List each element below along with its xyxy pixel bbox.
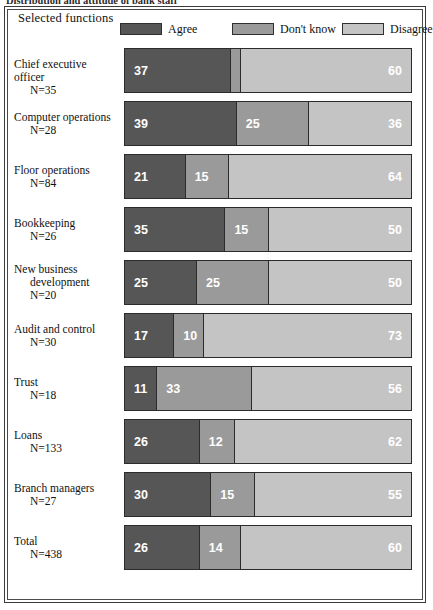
row-floor-operations-bar: 211564: [124, 154, 412, 199]
row-chief-executive-officer-segment-disagree: 60: [240, 49, 411, 92]
row-computer-operations: Computer operationsN=28392536: [0, 101, 430, 146]
row-loans-segment-agree: 26: [125, 420, 199, 463]
row-computer-operations-bar: 392536: [124, 101, 412, 146]
row-audit-and-control-bar: 171073: [124, 313, 412, 358]
row-audit-and-control-segment-agree: 17: [125, 314, 173, 357]
row-floor-operations-value: 64: [388, 170, 402, 184]
row-total-segment-disagree: 60: [240, 526, 411, 569]
row-new-business-development-bar: 252550: [124, 260, 412, 305]
row-trust-count: N=18: [14, 389, 118, 402]
row-total-label: TotalN=438: [14, 535, 118, 561]
row-new-business-development-segment-disagree: 50: [268, 261, 411, 304]
row-total-label-line: Total: [14, 535, 118, 548]
row-new-business-development-segment-agree: 25: [125, 261, 196, 304]
row-floor-operations-label: Floor operationsN=84: [14, 164, 118, 190]
row-branch-managers-value: 55: [388, 488, 402, 502]
row-loans-bar: 261262: [124, 419, 412, 464]
row-loans-segment-disagree: 62: [234, 420, 411, 463]
row-branch-managers-value: 30: [134, 488, 148, 502]
row-branch-managers-segment-agree: 30: [125, 473, 210, 516]
row-computer-operations-value: 36: [388, 117, 402, 131]
row-computer-operations-label: Computer operationsN=28: [14, 111, 118, 137]
row-total: TotalN=438261460: [0, 525, 430, 570]
row-branch-managers-label-line: Branch managers: [14, 482, 118, 495]
row-bookkeeping-value: 15: [234, 223, 248, 237]
row-loans: LoansN=133261262: [0, 419, 430, 464]
row-bookkeeping-count: N=26: [14, 230, 118, 243]
row-total-value: 14: [209, 541, 223, 555]
row-loans-count: N=133: [14, 442, 118, 455]
row-branch-managers-value: 15: [220, 488, 234, 502]
row-chief-executive-officer-count: N=35: [14, 84, 118, 97]
row-floor-operations-value: 15: [195, 170, 209, 184]
row-bookkeeping-value: 50: [388, 223, 402, 237]
row-trust-segment-don-t-know: 33: [156, 367, 251, 410]
row-trust-segment-agree: 11: [125, 367, 156, 410]
row-computer-operations-label-line: Computer operations: [14, 111, 118, 124]
row-computer-operations-segment-agree: 39: [125, 102, 236, 145]
row-new-business-development-label-line: New business: [14, 263, 118, 276]
row-chief-executive-officer-bar: 37360: [124, 48, 412, 93]
row-audit-and-control-value: 73: [388, 329, 402, 343]
row-chief-executive-officer-label: Chief executive officerN=35: [14, 58, 118, 97]
row-computer-operations-segment-don-t-know: 25: [236, 102, 308, 145]
row-chief-executive-officer: Chief executive officerN=3537360: [0, 48, 430, 93]
row-bookkeeping-segment-agree: 35: [125, 208, 224, 251]
row-trust-bar: 113356: [124, 366, 412, 411]
row-loans-label-line: Loans: [14, 429, 118, 442]
row-loans-value: 26: [134, 435, 148, 449]
row-total-count: N=438: [14, 548, 118, 561]
row-audit-and-control-segment-disagree: 73: [203, 314, 411, 357]
row-bookkeeping-segment-disagree: 50: [268, 208, 411, 251]
row-trust-segment-disagree: 56: [251, 367, 411, 410]
row-loans-value: 12: [209, 435, 223, 449]
row-total-segment-don-t-know: 14: [199, 526, 240, 569]
row-branch-managers-segment-don-t-know: 15: [210, 473, 254, 516]
row-floor-operations-value: 21: [134, 170, 148, 184]
row-total-value: 60: [388, 541, 402, 555]
row-new-business-development-value: 50: [388, 276, 402, 290]
row-audit-and-control: Audit and controlN=30171073: [0, 313, 430, 358]
row-bookkeeping-value: 35: [134, 223, 148, 237]
row-floor-operations-segment-don-t-know: 15: [185, 155, 229, 198]
row-audit-and-control-segment-don-t-know: 10: [173, 314, 202, 357]
row-floor-operations-count: N=84: [14, 177, 118, 190]
row-computer-operations-value: 39: [134, 117, 148, 131]
row-audit-and-control-count: N=30: [14, 336, 118, 349]
row-floor-operations-segment-agree: 21: [125, 155, 185, 198]
row-floor-operations: Floor operationsN=84211564: [0, 154, 430, 199]
row-audit-and-control-value: 10: [183, 329, 197, 343]
row-bookkeeping: BookkeepingN=26351550: [0, 207, 430, 252]
row-computer-operations-value: 25: [246, 117, 260, 131]
row-new-business-development: New businessdevelopmentN=20252550: [0, 260, 430, 305]
row-trust-value: 11: [134, 382, 147, 396]
row-audit-and-control-label-line: Audit and control: [14, 323, 118, 336]
row-new-business-development-label: New businessdevelopmentN=20: [14, 263, 118, 302]
row-chief-executive-officer-value: 37: [134, 64, 148, 78]
row-total-segment-agree: 26: [125, 526, 199, 569]
row-new-business-development-value: 25: [134, 276, 148, 290]
row-trust: TrustN=18113356: [0, 366, 430, 411]
row-chief-executive-officer-value: 60: [388, 64, 402, 78]
row-branch-managers-label: Branch managersN=27: [14, 482, 118, 508]
row-branch-managers-segment-disagree: 55: [254, 473, 411, 516]
row-branch-managers: Branch managersN=27301555: [0, 472, 430, 517]
row-bookkeeping-label: BookkeepingN=26: [14, 217, 118, 243]
row-loans-value: 62: [388, 435, 402, 449]
row-new-business-development-value: 25: [206, 276, 220, 290]
row-trust-value: 33: [166, 382, 180, 396]
row-chief-executive-officer-segment-don-t-know: 3: [230, 49, 240, 92]
row-audit-and-control-value: 17: [134, 329, 148, 343]
row-computer-operations-segment-disagree: 36: [308, 102, 411, 145]
row-bookkeeping-bar: 351550: [124, 207, 412, 252]
row-branch-managers-bar: 301555: [124, 472, 412, 517]
row-chief-executive-officer-segment-agree: 37: [125, 49, 230, 92]
row-loans-label: LoansN=133: [14, 429, 118, 455]
row-total-bar: 261460: [124, 525, 412, 570]
row-branch-managers-count: N=27: [14, 495, 118, 508]
row-chief-executive-officer-label-line: Chief executive officer: [14, 58, 118, 84]
row-trust-value: 56: [388, 382, 402, 396]
row-new-business-development-segment-don-t-know: 25: [196, 261, 268, 304]
